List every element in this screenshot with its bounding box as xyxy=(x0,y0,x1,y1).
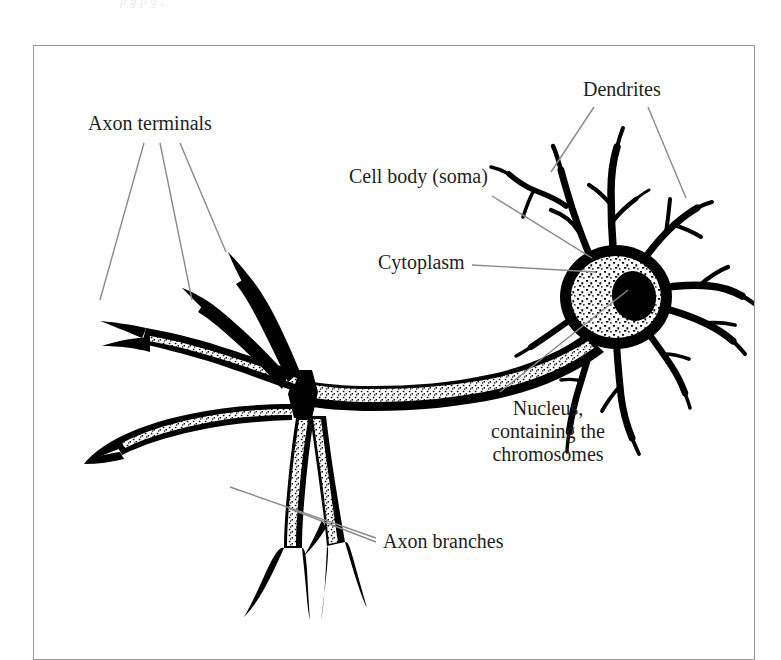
label-nucleus-line-1: Nucleus, xyxy=(463,397,633,420)
axon-terminal-tip-10 xyxy=(345,542,367,608)
axon-branches-group xyxy=(84,252,367,620)
axon-terminal-tip-11 xyxy=(304,520,326,556)
leader-axon-terminals-2 xyxy=(160,143,192,300)
leader-axon-terminals-1 xyxy=(100,143,144,300)
soma-group xyxy=(560,245,672,349)
label-nucleus: Nucleus, containing the chromosomes xyxy=(463,397,633,466)
leader-dendrites-right xyxy=(648,107,686,198)
axon-terminal-tip-5 xyxy=(228,252,249,286)
axon-terminal-tip-8 xyxy=(302,548,310,620)
axon-terminal-tip-9 xyxy=(321,546,328,620)
axoplasm-channel xyxy=(303,341,594,402)
axon-terminal-tip-2 xyxy=(102,337,150,352)
label-nucleus-line-2: containing the xyxy=(463,420,633,443)
leader-axon-terminals-3 xyxy=(180,143,226,252)
label-axon-branches: Axon branches xyxy=(383,530,504,553)
axon-terminal-tip-7 xyxy=(244,548,284,617)
axon-terminal-tip-6 xyxy=(182,288,206,310)
label-nucleus-line-3: chromosomes xyxy=(463,443,633,466)
label-dendrites: Dendrites xyxy=(583,78,661,101)
label-axon-terminals: Axon terminals xyxy=(88,112,212,135)
label-cell-body: Cell body (soma) xyxy=(349,165,488,188)
leader-dendrites-left xyxy=(551,107,594,172)
axon-terminal-tip-1 xyxy=(100,321,146,338)
label-cytoplasm: Cytoplasm xyxy=(378,251,465,274)
